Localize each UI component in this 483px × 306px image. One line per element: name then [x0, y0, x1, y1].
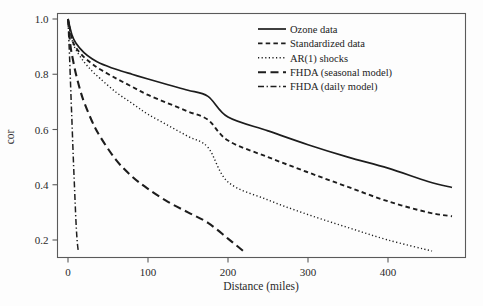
- figure-container: 0100200300400 1.00.80.60.40.2 Distance (…: [0, 0, 483, 306]
- chart-canvas: 0100200300400 1.00.80.60.40.2 Distance (…: [0, 0, 483, 306]
- x-tick-label: 0: [65, 266, 71, 278]
- legend-label: Standardized data: [290, 38, 365, 49]
- legend-label: FHDA (seasonal model): [290, 67, 393, 79]
- y-axis-tickmarks: [53, 19, 58, 240]
- legend: Ozone dataStandardized dataAR(1) shocksF…: [258, 24, 393, 94]
- y-tick-label: 0.8: [35, 68, 49, 80]
- series-line: [68, 19, 78, 252]
- x-tick-label: 200: [220, 266, 237, 278]
- y-tick-label: 0.6: [35, 124, 49, 136]
- x-tick-label: 100: [140, 266, 157, 278]
- y-axis-tick-labels: 1.00.80.60.40.2: [35, 13, 49, 246]
- data-series-group: [68, 19, 452, 252]
- legend-label: FHDA (daily model): [290, 81, 378, 93]
- y-tick-label: 1.0: [35, 13, 49, 25]
- legend-label: AR(1) shocks: [290, 53, 348, 65]
- x-axis-title: Distance (miles): [223, 280, 299, 293]
- x-axis-tickmarks: [68, 258, 388, 263]
- series-line: [68, 19, 244, 252]
- y-tick-label: 0.2: [35, 234, 49, 246]
- series-line: [68, 19, 432, 251]
- plot-frame: [58, 14, 466, 258]
- series-line: [68, 19, 452, 216]
- legend-label: Ozone data: [290, 24, 338, 35]
- x-tick-label: 300: [300, 266, 317, 278]
- x-axis-tick-labels: 0100200300400: [65, 266, 397, 278]
- y-axis-title: cor: [4, 129, 16, 144]
- y-tick-label: 0.4: [35, 179, 49, 191]
- x-tick-label: 400: [380, 266, 397, 278]
